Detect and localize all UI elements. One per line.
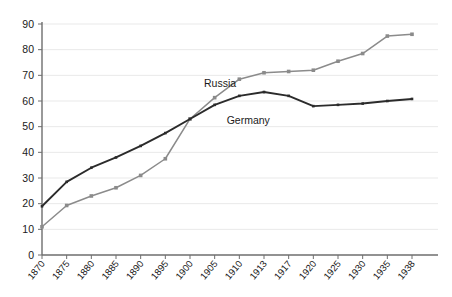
y-tick-label: 40 <box>22 146 34 158</box>
x-tick-label: 1885 <box>99 258 121 281</box>
data-point-germany <box>41 205 44 208</box>
x-tick-label: 1920 <box>296 258 318 281</box>
y-tick-label: 20 <box>22 197 34 209</box>
x-tick-label: 1875 <box>50 258 72 281</box>
x-tick-label: 1925 <box>321 258 343 281</box>
x-tick-label: 1895 <box>148 258 170 281</box>
data-point-russia <box>262 71 266 75</box>
series-line-germany <box>42 92 412 206</box>
data-point-russia <box>114 186 118 190</box>
x-tick-label: 1917 <box>272 258 294 281</box>
x-tick-label: 1910 <box>222 258 244 281</box>
x-tick-label: 1880 <box>74 258 96 281</box>
y-tick-label: 70 <box>22 69 34 81</box>
data-point-russia <box>287 70 291 74</box>
chart-container: 0102030405060708090187018751880188518901… <box>0 0 452 297</box>
y-tick-label: 90 <box>22 18 34 30</box>
series-label-russia: Russia <box>204 77 236 89</box>
x-tick-label: 1935 <box>370 258 392 281</box>
y-tick-label: 10 <box>22 223 34 235</box>
x-tick-label: 1890 <box>124 258 146 281</box>
y-tick-label: 30 <box>22 172 34 184</box>
data-point-russia <box>164 157 168 161</box>
y-tick-label: 50 <box>22 120 34 132</box>
y-tick-label: 60 <box>22 95 34 107</box>
data-point-russia <box>139 174 143 178</box>
x-tick-label: 1870 <box>25 258 47 281</box>
data-point-germany <box>386 100 389 103</box>
x-tick-label: 1900 <box>173 258 195 281</box>
data-point-germany <box>139 145 142 148</box>
data-point-germany <box>164 132 167 135</box>
data-point-germany <box>411 98 414 101</box>
data-point-russia <box>312 68 316 72</box>
series-label-germany: Germany <box>227 114 271 126</box>
x-tick-label: 1905 <box>198 258 220 281</box>
data-point-russia <box>238 77 242 81</box>
data-point-germany <box>238 95 241 98</box>
data-point-germany <box>337 104 340 107</box>
data-point-russia <box>65 204 69 208</box>
x-tick-label: 1930 <box>346 258 368 281</box>
x-tick-label: 1913 <box>247 258 269 281</box>
data-point-germany <box>65 181 68 184</box>
series-line-russia <box>42 34 412 227</box>
data-point-germany <box>115 156 118 159</box>
data-point-germany <box>90 166 93 169</box>
line-chart: 0102030405060708090187018751880188518901… <box>0 0 452 297</box>
data-point-russia <box>213 96 217 100</box>
data-point-russia <box>40 225 44 229</box>
data-point-russia <box>336 59 340 63</box>
y-tick-label: 80 <box>22 43 34 55</box>
data-point-russia <box>361 52 365 56</box>
data-point-russia <box>410 32 414 36</box>
data-point-russia <box>386 34 390 38</box>
data-point-germany <box>213 104 216 107</box>
data-point-germany <box>189 118 192 121</box>
data-point-germany <box>361 102 364 105</box>
y-tick-label: 0 <box>28 249 34 261</box>
data-point-germany <box>287 95 290 98</box>
x-tick-label: 1938 <box>395 258 417 281</box>
data-point-russia <box>90 194 94 198</box>
data-point-germany <box>263 91 266 94</box>
data-point-germany <box>312 105 315 108</box>
